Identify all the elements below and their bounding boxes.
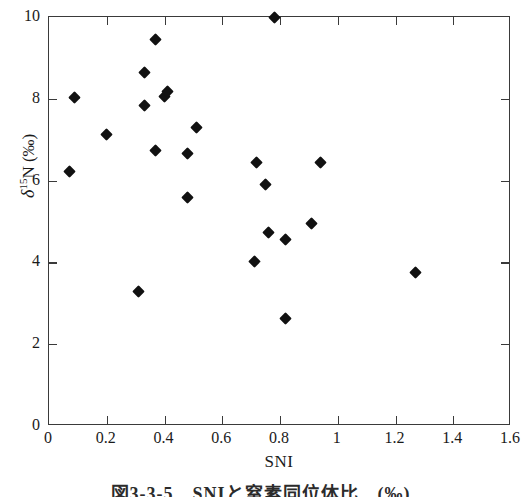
scatter-point bbox=[268, 11, 281, 24]
x-tick-label: 1.2 bbox=[385, 429, 405, 447]
scatter-point bbox=[138, 99, 151, 112]
scatter-point bbox=[305, 217, 318, 230]
y-tick-label: 6 bbox=[0, 172, 40, 188]
scatter-point bbox=[69, 92, 82, 105]
scatter-point bbox=[259, 178, 272, 191]
scatter-point bbox=[262, 227, 275, 240]
scatter-point bbox=[279, 312, 292, 325]
x-tick-label: 0.6 bbox=[211, 429, 231, 447]
scatter-point bbox=[138, 66, 151, 79]
scatter-data-layer bbox=[49, 17, 509, 424]
scatter-point bbox=[279, 233, 292, 246]
x-tick-label: 0.2 bbox=[96, 429, 116, 447]
x-tick-label: 0.4 bbox=[154, 429, 174, 447]
x-axis-title: SNI bbox=[48, 452, 510, 472]
scatter-point bbox=[248, 255, 261, 268]
x-tick-label: 0.8 bbox=[269, 429, 289, 447]
y-tick-label: 10 bbox=[0, 8, 40, 24]
y-tick-label: 8 bbox=[0, 90, 40, 106]
scatter-point bbox=[149, 144, 162, 157]
scatter-point bbox=[132, 285, 145, 298]
y-tick-label: 2 bbox=[0, 335, 40, 351]
x-tick-label: 1 bbox=[333, 429, 341, 447]
figure-caption: 図3-3-5 SNIと窒素同位体比 (‰) bbox=[0, 479, 521, 497]
x-tick-label: 0 bbox=[44, 429, 52, 447]
scatter-point bbox=[409, 266, 422, 279]
scatter-point bbox=[181, 147, 194, 160]
scatter-point bbox=[251, 156, 264, 169]
scatter-point bbox=[314, 156, 327, 169]
scatter-point bbox=[63, 165, 76, 178]
y-tick-label: 4 bbox=[0, 253, 40, 269]
scatter-point bbox=[149, 33, 162, 46]
scatter-point bbox=[181, 191, 194, 204]
y-axis-delta-symbol: δ bbox=[18, 190, 38, 198]
x-tick-label: 1.6 bbox=[500, 429, 520, 447]
y-tick-label: 0 bbox=[0, 417, 40, 433]
x-tick-label: 1.4 bbox=[442, 429, 462, 447]
scatter-point bbox=[190, 121, 203, 134]
figure-container: δ15N (‰) 00.20.40.60.811.21.41.6 0246810… bbox=[0, 0, 521, 497]
scatter-point bbox=[100, 128, 113, 141]
plot-area bbox=[48, 16, 510, 425]
y-axis-unit: (‰) bbox=[19, 134, 38, 162]
